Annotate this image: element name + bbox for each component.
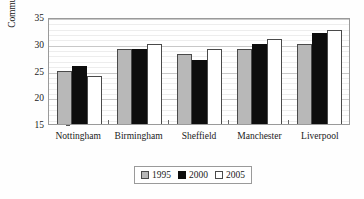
legend-item-2005: 2005 xyxy=(215,169,245,181)
x-axis-label-nottingham: Nottingham xyxy=(48,128,108,144)
bar-birmingham-1995 xyxy=(117,49,132,124)
bar-series-layer xyxy=(49,19,349,124)
bar-liverpool-2005 xyxy=(327,30,342,124)
bar-manchester-2005 xyxy=(267,39,282,124)
legend-swatch-icon xyxy=(215,171,223,179)
bar-group xyxy=(109,19,169,124)
x-axis-label-manchester: Manchester xyxy=(229,128,289,144)
legend-label: 2005 xyxy=(226,169,245,181)
bar-birmingham-2000 xyxy=(132,49,147,124)
y-axis-tick-label: 35 xyxy=(22,13,44,23)
bar-group xyxy=(289,19,349,124)
x-axis-label-birmingham: Birmingham xyxy=(108,128,168,144)
bar-sheffield-2005 xyxy=(207,49,222,124)
bar-sheffield-2000 xyxy=(192,60,207,124)
x-axis-label-liverpool: Liverpool xyxy=(290,128,350,144)
y-axis-tick-mark xyxy=(66,125,70,126)
y-axis-tick-label: 30 xyxy=(22,40,44,50)
legend-item-1995: 1995 xyxy=(141,169,171,181)
y-axis-tick-label: 15 xyxy=(22,120,44,130)
bar-liverpool-1995 xyxy=(297,44,312,124)
bar-group xyxy=(229,19,289,124)
legend-label: 1995 xyxy=(152,169,171,181)
x-axis-label-sheffield: Sheffield xyxy=(169,128,229,144)
y-axis-tick-label: 20 xyxy=(22,93,44,103)
bar-liverpool-2000 xyxy=(312,33,327,124)
bar-manchester-1995 xyxy=(237,49,252,124)
bar-group xyxy=(49,19,109,124)
bar-group xyxy=(169,19,229,124)
bar-sheffield-1995 xyxy=(177,54,192,124)
bar-manchester-2000 xyxy=(252,44,267,124)
bar-nottingham-2005 xyxy=(87,76,102,124)
bar-chart: Commuting Time (minutes) 1520253035 Nott… xyxy=(0,0,364,199)
x-axis-category-labels: NottinghamBirminghamSheffieldManchesterL… xyxy=(48,128,350,144)
legend-swatch-icon xyxy=(178,171,186,179)
chart-legend: 199520002005 xyxy=(134,166,252,184)
y-axis-title: Commuting Time (minutes) xyxy=(5,0,19,32)
bar-nottingham-2000 xyxy=(72,66,87,124)
bar-birmingham-2005 xyxy=(147,44,162,124)
legend-label: 2000 xyxy=(189,169,208,181)
legend-item-2000: 2000 xyxy=(178,169,208,181)
y-axis-tick-labels: 1520253035 xyxy=(22,13,44,125)
y-axis-tick-label: 25 xyxy=(22,67,44,77)
bar-nottingham-1995 xyxy=(57,71,72,125)
legend-swatch-icon xyxy=(141,171,149,179)
plot-area xyxy=(48,18,350,125)
